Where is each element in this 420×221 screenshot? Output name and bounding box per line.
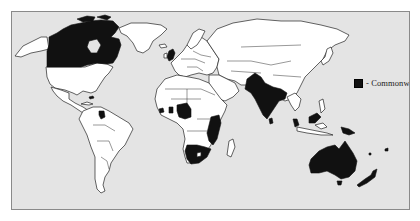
commonwealth-papua-new-guinea [341,127,355,135]
land-ireland [164,53,167,58]
land-south-america [79,107,133,193]
land-greenland [119,23,167,53]
land-indonesia [297,123,333,135]
commonwealth-sri-lanka [269,118,273,124]
commonwealth-new-zealand [357,169,377,187]
land-philippines [319,99,325,113]
land-lesotho [197,152,201,157]
commonwealth-australia [309,141,357,179]
commonwealth-canada [47,20,121,67]
map-legend: - Commonwealth [354,78,410,88]
commonwealth-bahamas [89,96,94,99]
commonwealth-tasmania [337,181,342,185]
land-iceland [159,44,167,48]
legend-swatch-commonwealth [354,79,363,88]
world-map: - Commonwealth [11,11,410,210]
commonwealth-pacific-islands [369,148,388,155]
map-canvas [12,12,410,210]
land-caribbean [81,102,93,105]
commonwealth-united-kingdom [167,49,175,61]
land-madagascar [227,139,235,157]
legend-label: - Commonwealth [366,78,410,88]
land-southeast-asia [287,93,301,111]
land-alaska [15,37,49,57]
